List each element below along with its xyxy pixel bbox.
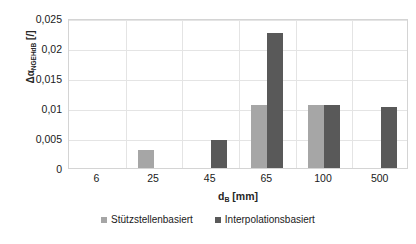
y-axis-tick-label: 0,025 <box>36 14 62 24</box>
bar <box>308 105 324 168</box>
x-axis-title-unit: [mm] <box>229 190 258 202</box>
y-axis-tick-label: 0,02 <box>42 44 62 54</box>
legend-swatch-icon <box>101 217 107 223</box>
bar-group <box>69 20 126 168</box>
bar-chart: ΔαNGEHdB [/] 00,0050,010,0150,020,025 62… <box>0 0 416 244</box>
bar <box>381 107 397 168</box>
bar <box>211 140 227 168</box>
x-axis-tick-label: 45 <box>181 172 238 185</box>
bar-group <box>352 20 409 168</box>
legend-label: Stützstellenbasiert <box>111 214 193 225</box>
y-axis-tick-label: 0 <box>56 164 62 174</box>
bar <box>138 150 154 168</box>
bars-layer <box>69 20 407 168</box>
legend-item[interactable]: Stützstellenbasiert <box>101 214 193 225</box>
bar <box>267 33 283 168</box>
chart-legend: StützstellenbasiertInterpolationsbasiert <box>0 214 416 225</box>
bar-group <box>126 20 183 168</box>
bar <box>324 105 340 168</box>
plot-area <box>68 19 408 169</box>
x-axis-tick-label: 500 <box>351 172 408 185</box>
y-axis-tick-label: 0,015 <box>36 74 62 84</box>
x-axis-tick-label: 25 <box>125 172 182 185</box>
x-axis-tick-label: 6 <box>68 172 125 185</box>
bar <box>251 105 267 168</box>
y-axis-tick-labels: 00,0050,010,0150,020,025 <box>24 14 66 169</box>
bar-group <box>296 20 353 168</box>
bar-group <box>182 20 239 168</box>
legend-item[interactable]: Interpolationsbasiert <box>215 214 315 225</box>
x-axis-tick-label: 65 <box>238 172 295 185</box>
y-axis-tick-label: 0,01 <box>42 104 62 114</box>
legend-label: Interpolationsbasiert <box>225 214 315 225</box>
x-axis-tick-labels: 6254565100500 <box>68 172 408 188</box>
bar-group <box>239 20 296 168</box>
legend-swatch-icon <box>215 217 221 223</box>
y-axis-tick-label: 0,005 <box>36 134 62 144</box>
x-axis-tick-label: 100 <box>295 172 352 185</box>
x-axis-title: dB [mm] <box>68 190 408 203</box>
